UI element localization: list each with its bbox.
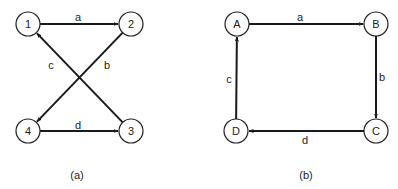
edge-a-1-to-2: a [40, 11, 118, 24]
edge-a-A-to-B: a [249, 11, 363, 24]
node-4: 4 [16, 119, 40, 143]
diagram-canvas: abcd1234(a) abcdABCD(b) [0, 0, 398, 189]
node-label: C [372, 125, 380, 137]
node-1: 1 [16, 12, 40, 36]
node-3: 3 [119, 119, 143, 143]
node-D: D [224, 119, 248, 143]
edge-label: a [75, 11, 82, 23]
arrow-icon [236, 37, 237, 119]
node-C: C [364, 119, 388, 143]
figure-caption: (b) [299, 169, 312, 181]
node-A: A [225, 12, 249, 36]
node-2: 2 [119, 12, 143, 36]
edge-label: b [379, 71, 385, 83]
graph-b: abcdABCD(b) [224, 11, 388, 181]
graph-a: abcd1234(a) [16, 11, 143, 181]
node-B: B [364, 12, 388, 36]
edge-label: b [104, 59, 110, 71]
edge-label: a [297, 11, 304, 23]
node-label: 2 [128, 18, 134, 30]
edge-label: d [75, 119, 81, 131]
edge-d-4-to-3: d [40, 119, 118, 131]
node-label: 3 [128, 125, 134, 137]
node-label: D [232, 125, 240, 137]
edge-label: c [226, 73, 232, 85]
node-label: A [233, 18, 241, 30]
edge-c-D-to-A: c [226, 37, 237, 119]
edge-b-B-to-C: b [376, 36, 385, 118]
edge-label: c [48, 59, 54, 71]
edge-label: d [302, 134, 308, 146]
figure-caption: (a) [70, 169, 83, 181]
node-label: 4 [25, 125, 31, 137]
node-label: B [372, 18, 379, 30]
node-label: 1 [25, 18, 31, 30]
edge-d-C-to-D: d [249, 131, 364, 146]
